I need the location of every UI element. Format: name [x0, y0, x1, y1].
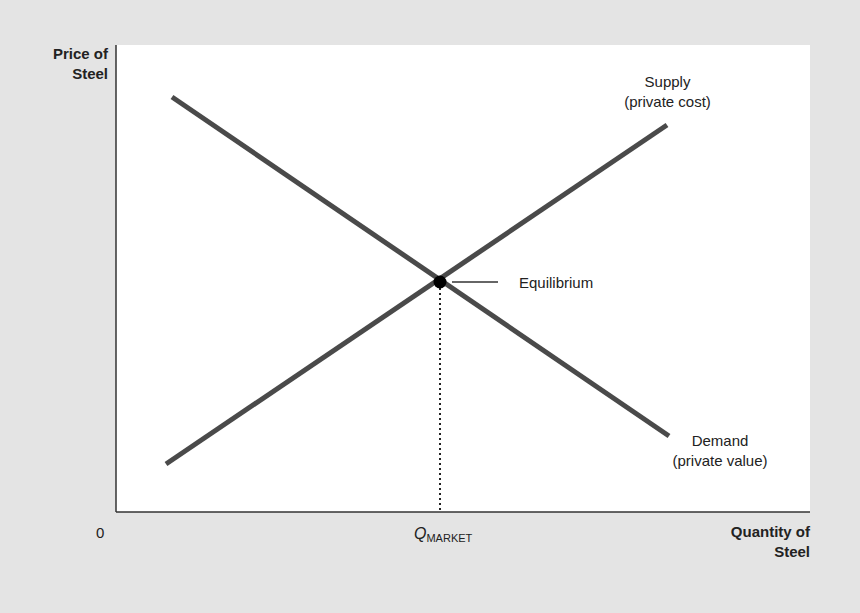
- supply-label: Supply (private cost): [560, 72, 775, 112]
- demand-label: Demand (private value): [610, 431, 830, 471]
- y-axis-label: Price of Steel: [20, 44, 108, 84]
- demand-label-line1: Demand: [610, 431, 830, 451]
- demand-label-line2: (private value): [610, 451, 830, 471]
- equilibrium-label: Equilibrium: [519, 273, 593, 293]
- q-market-subscript: MARKET: [426, 532, 472, 544]
- x-axis-label-line1: Quantity of: [680, 522, 810, 542]
- q-market-main: Q: [414, 525, 426, 542]
- y-axis-label-line2: Steel: [20, 64, 108, 84]
- y-axis-label-line1: Price of: [20, 44, 108, 64]
- x-axis-label: Quantity of Steel: [680, 522, 810, 562]
- supply-label-line2: (private cost): [560, 92, 775, 112]
- q-market-label: QMARKET: [414, 524, 472, 545]
- supply-label-line1: Supply: [560, 72, 775, 92]
- equilibrium-point: [434, 276, 447, 289]
- origin-label: 0: [96, 523, 104, 543]
- x-axis-label-line2: Steel: [680, 542, 810, 562]
